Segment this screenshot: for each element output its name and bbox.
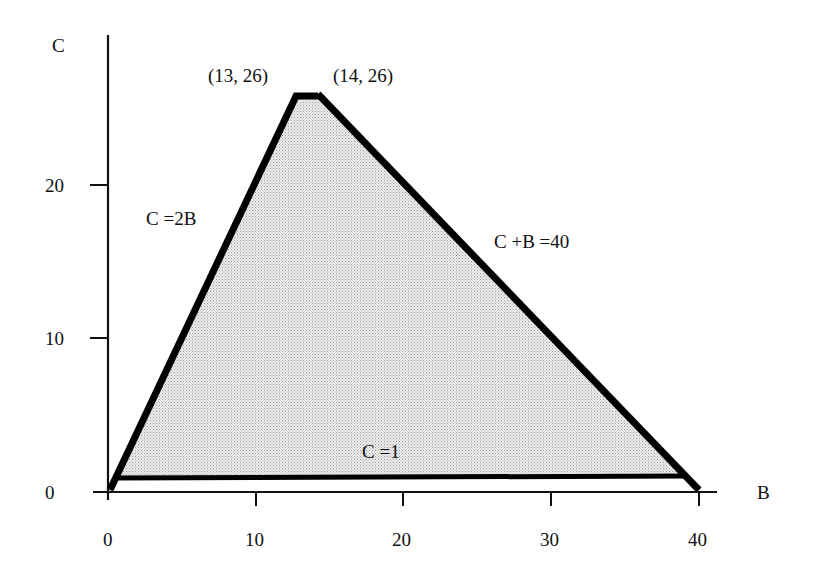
- vertex-label-13-26: (13, 26): [208, 65, 268, 87]
- y-tick-label-20: 20: [45, 175, 64, 196]
- line-label-c-plus-b-eq-40: C +B =40: [494, 231, 569, 252]
- x-tick-label-20: 20: [392, 529, 411, 550]
- feasible-region: [116, 94, 685, 477]
- line-label-c-eq-2b: C =2B: [146, 208, 196, 229]
- x-tick-label-40: 40: [688, 529, 707, 550]
- constraint-c-eq-1: [113, 476, 688, 478]
- x-tick-label-30: 30: [540, 529, 559, 550]
- line-label-c-eq-1: C =1: [362, 441, 400, 462]
- vertex-label-14-26: (14, 26): [333, 65, 393, 87]
- x-tick-label-0: 0: [103, 529, 113, 550]
- y-tick-label-10: 10: [45, 328, 64, 349]
- feasible-region-chart: C B 0 10 20 0 10 20 30 40 (13, 26) (14, …: [0, 0, 814, 588]
- x-tick-label-10: 10: [245, 529, 264, 550]
- y-tick-label-0: 0: [45, 482, 55, 503]
- x-axis-label: B: [757, 482, 770, 503]
- y-axis-label: C: [52, 35, 65, 56]
